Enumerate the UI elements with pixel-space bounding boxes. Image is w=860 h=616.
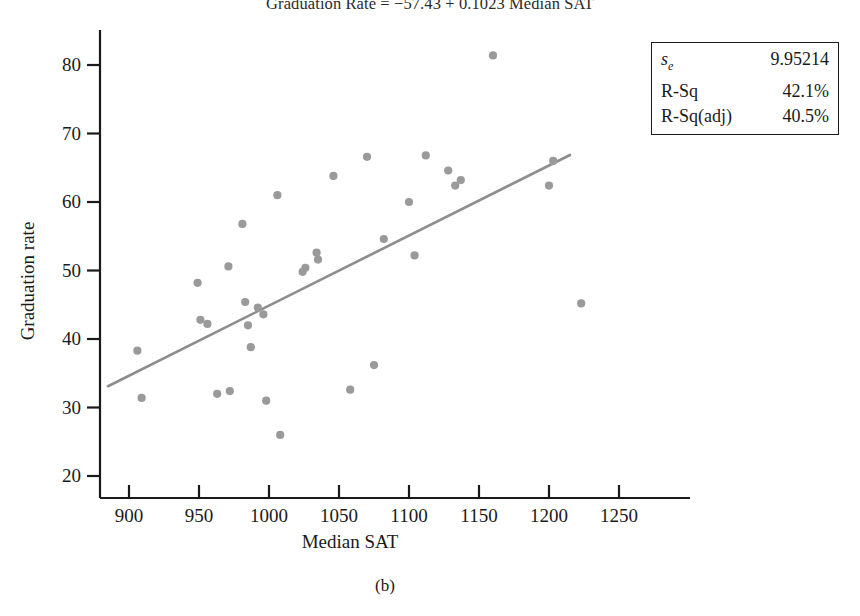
data-point: [213, 390, 221, 398]
regression-line: [108, 155, 570, 386]
data-point: [238, 220, 246, 228]
y-tick-label: 80: [27, 55, 81, 74]
statistics-label-symbol: s: [661, 49, 668, 69]
data-point: [259, 310, 267, 318]
data-point: [314, 255, 322, 263]
data-point: [254, 303, 262, 311]
statistics-row: se9.95214: [661, 47, 829, 79]
y-tick-label: 20: [27, 466, 81, 485]
data-point: [262, 397, 270, 405]
axis-tick-marks: [87, 65, 619, 498]
data-point: [276, 431, 284, 439]
statistics-value: 40.5%: [783, 104, 830, 129]
y-tick-label: 70: [27, 124, 81, 143]
data-point: [405, 198, 413, 206]
x-tick-label: 1000: [234, 506, 304, 525]
scatter-plot-figure: Graduation Rate = −57.43 + 0.1023 Median…: [0, 0, 860, 616]
x-tick-label: 1150: [444, 506, 514, 525]
data-point: [545, 181, 553, 189]
figure-caption: (b): [0, 576, 770, 596]
data-point: [313, 249, 321, 257]
data-point: [203, 320, 211, 328]
statistics-label: R-Sq: [661, 79, 698, 104]
data-point: [133, 347, 141, 355]
data-point: [549, 157, 557, 165]
data-point: [329, 172, 337, 180]
statistics-label: R-Sq(adj): [661, 104, 732, 129]
x-tick-label: 1250: [584, 506, 654, 525]
data-point: [226, 387, 234, 395]
data-point: [422, 151, 430, 159]
x-tick-label: 1200: [514, 506, 584, 525]
x-tick-label: 1050: [304, 506, 374, 525]
statistics-row: R-Sq42.1%: [661, 79, 829, 104]
x-axis-title: Median SAT: [0, 531, 700, 553]
data-point: [138, 394, 146, 402]
x-tick-label: 1100: [374, 506, 444, 525]
statistics-value: 9.95214: [771, 47, 830, 72]
data-point: [247, 343, 255, 351]
statistics-value: 42.1%: [783, 79, 830, 104]
data-point: [411, 251, 419, 259]
data-point: [224, 262, 232, 270]
data-point: [196, 316, 204, 324]
y-axis-title: Graduation rate: [17, 171, 39, 391]
statistics-box: se9.95214R-Sq42.1%R-Sq(adj)40.5%: [651, 42, 839, 135]
statistics-row: R-Sq(adj)40.5%: [661, 104, 829, 129]
statistics-label: se: [661, 47, 673, 79]
y-tick-label: 30: [27, 398, 81, 417]
data-point: [489, 51, 497, 59]
x-tick-label: 950: [164, 506, 234, 525]
data-point: [577, 299, 585, 307]
data-points: [133, 51, 585, 439]
data-point: [363, 153, 371, 161]
data-point: [301, 264, 309, 272]
statistics-label-subscript: e: [668, 59, 673, 73]
data-point: [244, 321, 252, 329]
data-point: [444, 166, 452, 174]
axis-lines: [100, 30, 690, 498]
x-tick-label: 900: [94, 506, 164, 525]
data-point: [370, 361, 378, 369]
data-point: [380, 235, 388, 243]
data-point: [346, 386, 354, 394]
data-point: [457, 176, 465, 184]
data-point: [194, 279, 202, 287]
data-point: [273, 191, 281, 199]
data-point: [241, 298, 249, 306]
